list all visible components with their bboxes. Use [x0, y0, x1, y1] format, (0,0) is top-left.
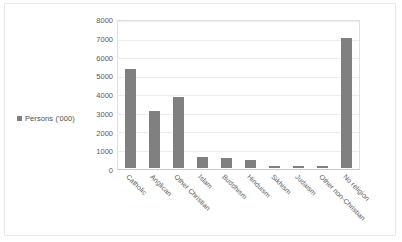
bar[interactable] [245, 160, 256, 168]
x-axis-slot: Hinduism [238, 171, 262, 241]
x-axis: CatholicAnglicanOther ChristianIslamBudd… [118, 171, 359, 241]
x-axis-slot: Catholic [118, 171, 142, 241]
x-axis-slot: No religion [335, 171, 359, 241]
bar-slot [215, 22, 239, 168]
y-axis-tick-label: 7000 [96, 34, 113, 43]
y-axis-tick-label: 0 [109, 166, 113, 175]
x-axis-slot: Other Christian [166, 171, 190, 241]
bar[interactable] [269, 166, 280, 168]
bar-slot [143, 22, 167, 168]
x-axis-slot: Sikhism [263, 171, 287, 241]
bar[interactable] [293, 166, 304, 168]
y-axis-tick-label: 1000 [96, 147, 113, 156]
bar[interactable] [149, 111, 160, 168]
x-axis-tick-label: No religion [342, 173, 371, 202]
bar[interactable] [341, 38, 352, 168]
y-axis-tick-label: 6000 [96, 53, 113, 62]
bar[interactable] [317, 166, 328, 168]
legend-swatch-icon [17, 116, 22, 121]
bar-slot [167, 22, 191, 168]
x-axis-slot: Buddhism [214, 171, 238, 241]
bar-slot [334, 22, 358, 168]
bar[interactable] [197, 157, 208, 168]
y-axis-tick-label: 4000 [96, 91, 113, 100]
y-axis-tick-label: 3000 [96, 109, 113, 118]
x-axis-slot: Islam [190, 171, 214, 241]
bar-slot [191, 22, 215, 168]
x-axis-slot: Anglican [142, 171, 166, 241]
chart-legend: Persons ('000) [17, 114, 75, 123]
y-axis-tick-label: 8000 [96, 16, 113, 25]
y-axis-tick-label: 5000 [96, 72, 113, 81]
plot-wrapper [117, 20, 360, 170]
y-axis-tick-label: 2000 [96, 128, 113, 137]
legend-series-label: Persons ('000) [25, 114, 75, 123]
bar-slot [286, 22, 310, 168]
plot-area [117, 20, 360, 170]
bar[interactable] [173, 97, 184, 168]
x-axis-slot: Other non-Christian [311, 171, 335, 241]
bar[interactable] [221, 158, 232, 168]
x-axis-slot: Judaism [287, 171, 311, 241]
bar-slot [310, 22, 334, 168]
y-axis: 800070006000500040003000200010000 [77, 20, 113, 170]
bar-slot [239, 22, 263, 168]
bar-series [119, 22, 358, 168]
bar[interactable] [125, 69, 136, 168]
chart-container: Persons ('000) 8000700060005000400030002… [4, 3, 396, 236]
bar-slot [262, 22, 286, 168]
bar-slot [119, 22, 143, 168]
x-axis-tick-label: Islam [197, 173, 214, 190]
